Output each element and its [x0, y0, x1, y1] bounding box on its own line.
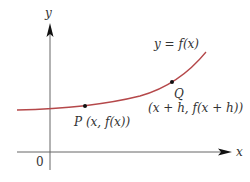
point-q-label: Q — [174, 87, 184, 101]
point-q — [170, 80, 174, 84]
origin-label: 0 — [36, 155, 44, 169]
point-p-label: P (x, f(x)) — [73, 115, 131, 129]
function-graph: y x 0 y = f(x) P (x, f(x)) Q (x + h, f(x… — [0, 0, 250, 182]
y-axis — [47, 23, 54, 170]
x-axis — [17, 149, 232, 156]
point-q-coords-label: (x + h, f(x + h)) — [148, 101, 243, 115]
curve-label: y = f(x) — [153, 37, 199, 51]
y-axis-label: y — [44, 6, 52, 20]
point-p — [83, 104, 87, 108]
x-axis-label: x — [236, 145, 243, 159]
